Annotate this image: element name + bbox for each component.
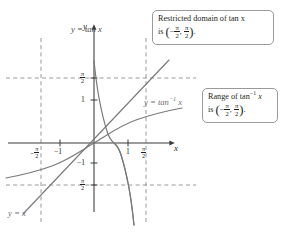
tick-label-x-one: 1 [126, 147, 130, 156]
callout-domain-line1: Restricted domain of tan x [158, 14, 268, 24]
asymptote-lines [6, 38, 196, 222]
callout-range: Range of tan−1 x is (−π2, π2). [202, 88, 278, 123]
period: . [244, 105, 246, 115]
arctan-exponent: −1 [169, 95, 176, 102]
range-prefix: Range of tan [208, 92, 250, 101]
range-suffix: x [258, 92, 262, 101]
curve-label-arctangent: y = tan−1 x [144, 97, 182, 107]
close-paren: ) [239, 107, 243, 115]
curve-label-identity: y = x [8, 208, 26, 218]
comma: , [180, 27, 182, 37]
fraction-pi-over-2: π2 [141, 146, 146, 160]
fraction-pi-over-2: π2 [34, 146, 39, 160]
range-exponent: −1 [250, 90, 256, 96]
figure-container: y x −π2 −1 1 π2 π2 1 −1 π2 y = tan x y =… [0, 0, 281, 235]
comma: , [230, 105, 232, 115]
tick-label-x-pi-over-2: π2 [141, 146, 146, 160]
curve-identity [23, 60, 169, 214]
callout-domain-line2: is (−π2, π2). [158, 25, 268, 40]
fraction-pi-over-2: π2 [80, 71, 85, 85]
fraction-pi-over-2-left: π2 [174, 24, 179, 39]
open-paren: ( [216, 107, 220, 115]
callout-domain-is: is [158, 27, 163, 37]
callout-range-line1: Range of tan−1 x [208, 92, 272, 102]
fraction-pi-over-2-left: π2 [224, 102, 229, 117]
open-paren: ( [166, 29, 170, 37]
tick-label-y-one: 1 [81, 95, 85, 104]
tick-label-y-neg-one: −1 [77, 158, 85, 167]
arctan-suffix: x [178, 97, 182, 107]
close-paren: ) [189, 29, 193, 37]
callout-range-is: is [208, 105, 213, 115]
tick-label-x-neg-pi-over-2: −π2 [30, 146, 39, 160]
callout-restricted-domain: Restricted domain of tan x is (−π2, π2). [152, 10, 274, 45]
curve-label-tangent: y = tan x [71, 24, 102, 34]
tick-label-y-neg-pi-over-2: π2 [80, 178, 85, 192]
tick-label-x-neg-one: −1 [54, 147, 62, 156]
fraction-pi-over-2: π2 [80, 178, 85, 192]
callout-range-line2: is (−π2, π2). [208, 103, 272, 118]
period: . [194, 27, 196, 37]
x-axis-label: x [174, 143, 178, 153]
tick-label-y-pi-over-2: π2 [80, 71, 85, 85]
arctan-prefix: y = tan [144, 97, 169, 107]
